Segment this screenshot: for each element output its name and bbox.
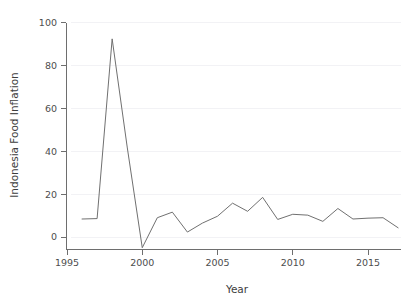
y-tick-group: 020406080100: [39, 17, 66, 242]
x-axis: 19952000200520102015: [55, 250, 401, 268]
y-tick-label: 60: [45, 103, 57, 114]
data-series-group: [82, 39, 398, 248]
y-tick-label: 40: [45, 146, 57, 157]
y-tick-label: 20: [45, 189, 57, 200]
y-axis-title: Indonesia Food Inflation: [8, 72, 20, 198]
x-tick-label: 2005: [205, 257, 229, 268]
line-chart-canvas: 020406080100 19952000200520102015 Year I…: [0, 0, 411, 302]
x-tick-group: 19952000200520102015: [55, 250, 380, 268]
x-tick-label: 2015: [356, 257, 380, 268]
y-tick-label: 100: [39, 17, 57, 28]
x-axis-title: Year: [225, 283, 249, 295]
x-tick-label: 2000: [130, 257, 154, 268]
y-tick-label: 0: [51, 231, 57, 242]
x-tick-label: 1995: [55, 257, 79, 268]
y-axis: 020406080100: [39, 17, 66, 250]
series-line-indonesia-food-inflation: [82, 39, 398, 248]
y-tick-label: 80: [45, 60, 57, 71]
chart-figure: 020406080100 19952000200520102015 Year I…: [0, 0, 411, 302]
x-tick-label: 2010: [281, 257, 305, 268]
